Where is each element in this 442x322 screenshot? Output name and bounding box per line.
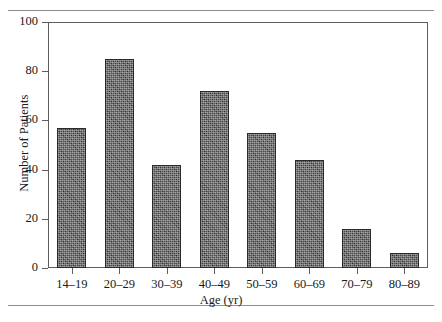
x-axis-tick-label: 40–49 <box>199 278 230 291</box>
page-rule-top <box>8 10 434 11</box>
y-axis-tick <box>42 219 48 220</box>
x-axis-tick <box>119 268 120 274</box>
x-axis-tick <box>72 268 73 274</box>
bars-layer <box>48 22 428 268</box>
bar <box>295 160 324 268</box>
x-axis-tick <box>167 268 168 274</box>
bar <box>247 133 276 268</box>
bar-chart-figure: 020406080100 14–1920–2930–3940–4950–5960… <box>0 0 442 322</box>
x-axis-tick <box>214 268 215 274</box>
y-axis-tick <box>42 71 48 72</box>
y-axis-tick-label: 100 <box>19 15 38 28</box>
bar <box>57 128 86 268</box>
x-axis-tick <box>262 268 263 274</box>
bar <box>342 229 371 268</box>
y-axis-tick <box>42 268 48 269</box>
y-axis-tick <box>42 170 48 171</box>
x-axis-tick-label: 80–89 <box>389 278 420 291</box>
y-axis-tick-label: 0 <box>32 261 38 274</box>
y-axis-tick <box>42 120 48 121</box>
bar <box>152 165 181 268</box>
x-axis-tick-label: 14–19 <box>56 278 87 291</box>
x-axis-tick <box>404 268 405 274</box>
x-axis-tick <box>309 268 310 274</box>
x-axis-tick-label: 20–29 <box>104 278 135 291</box>
bar <box>390 253 419 268</box>
x-axis-tick-label: 30–39 <box>151 278 182 291</box>
y-axis-title: Number of Patients <box>18 33 31 253</box>
y-axis-tick <box>42 22 48 23</box>
x-axis-title: Age (yr) <box>0 294 442 307</box>
x-axis-tick-label: 50–59 <box>246 278 277 291</box>
bar <box>200 91 229 268</box>
bar <box>105 59 134 268</box>
x-axis-tick-label: 70–79 <box>341 278 372 291</box>
x-axis-tick-label: 60–69 <box>294 278 325 291</box>
x-axis-tick <box>357 268 358 274</box>
